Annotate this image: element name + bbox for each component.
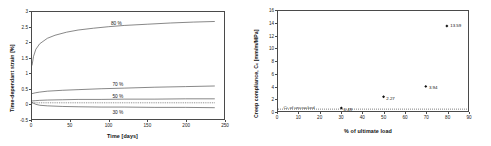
x-tick-label: 30 <box>338 115 343 120</box>
x-tick-label: 60 <box>402 115 407 120</box>
x-tick-mark <box>384 112 385 114</box>
curve-30- <box>32 102 215 107</box>
curve-80- <box>32 21 215 65</box>
data-point-label: 2.27 <box>386 95 395 100</box>
x-tick-label: 40 <box>360 115 365 120</box>
x-tick-label: 150 <box>144 123 152 128</box>
x-axis-label-right: % of ultimate load <box>245 128 491 134</box>
curve-label-50-: 50 % <box>112 93 123 98</box>
x-tick-label: 90 <box>466 115 471 120</box>
y-tick-label: 6 <box>257 71 274 76</box>
plot-area-left <box>31 11 225 120</box>
y-tick-label: 16 <box>257 8 274 13</box>
y-tick-label: 1.5 <box>10 55 28 60</box>
y-tick-mark <box>275 61 277 62</box>
x-tick-label: 0 <box>276 115 279 120</box>
y-tick-label: 2.5 <box>10 24 28 29</box>
x-axis-label-left: Time [days] <box>0 133 245 139</box>
y-tick-mark <box>29 42 31 43</box>
y-tick-label: 3 <box>10 9 28 14</box>
y-tick-label: 10 <box>257 46 274 51</box>
x-tick-label: 10 <box>296 115 301 120</box>
y-tick-label: 4 <box>257 84 274 89</box>
data-point-label: 13.59 <box>450 23 461 28</box>
chart-panel-creep-compliance: Creep compliance, Cc [mm/m/MPa] 02468101… <box>245 0 491 146</box>
data-point-marker <box>424 85 427 88</box>
data-point-marker <box>445 25 448 28</box>
x-tick-mark <box>298 112 299 114</box>
y-tick-label: 2 <box>257 97 274 102</box>
x-tick-label: 70 <box>424 115 429 120</box>
chart-panel-creep-strain: Time-dependant strain [%] -0.500.511.522… <box>0 0 245 146</box>
x-tick-label: 50 <box>381 115 386 120</box>
x-tick-label: 100 <box>105 123 113 128</box>
y-tick-mark <box>29 73 31 74</box>
x-tick-mark <box>469 112 470 114</box>
y-tick-mark <box>29 27 31 28</box>
y-tick-mark <box>29 11 31 12</box>
x-tick-mark <box>341 112 342 114</box>
x-tick-mark <box>448 112 449 114</box>
curve-label-80-: 80 % <box>111 20 122 25</box>
curve-50- <box>32 99 215 101</box>
y-tick-mark <box>275 99 277 100</box>
y-tick-mark <box>275 74 277 75</box>
data-point-marker <box>382 95 385 98</box>
x-tick-mark <box>109 120 110 122</box>
x-tick-label: 200 <box>182 123 190 128</box>
x-tick-mark <box>362 112 363 114</box>
y-tick-mark <box>275 87 277 88</box>
x-tick-label: 50 <box>67 123 72 128</box>
y-tick-label: 0 <box>10 102 28 107</box>
y-tick-mark <box>275 36 277 37</box>
annotation-uncracked-compliance: Cc of uncracked <box>283 105 314 110</box>
x-tick-mark <box>426 112 427 114</box>
x-tick-mark <box>70 120 71 122</box>
y-tick-mark <box>29 104 31 105</box>
x-tick-mark <box>31 120 32 122</box>
y-tick-mark <box>275 23 277 24</box>
left-curves-svg <box>32 12 224 119</box>
y-tick-label: 12 <box>257 33 274 38</box>
x-tick-mark <box>186 120 187 122</box>
y-tick-label: 0 <box>257 110 274 115</box>
y-tick-label: 0.5 <box>10 86 28 91</box>
y-tick-label: 1 <box>10 71 28 76</box>
figure-pair: Time-dependant strain [%] -0.500.511.522… <box>0 0 491 146</box>
curve-label-70-: 70 % <box>112 81 123 86</box>
right-scatter-svg <box>278 11 468 111</box>
data-point-label: 0.49 <box>344 106 353 111</box>
x-tick-mark <box>277 112 278 114</box>
x-tick-mark <box>320 112 321 114</box>
y-tick-label: 2 <box>10 40 28 45</box>
y-tick-mark <box>275 48 277 49</box>
y-tick-label: 8 <box>257 59 274 64</box>
x-tick-mark <box>405 112 406 114</box>
x-tick-label: 250 <box>221 123 229 128</box>
x-tick-label: 80 <box>445 115 450 120</box>
data-point-label: 3.94 <box>429 84 438 89</box>
y-tick-label: -0.5 <box>10 118 28 123</box>
plot-area-right <box>277 10 469 112</box>
y-tick-mark <box>29 58 31 59</box>
curve-label-30-: 30 % <box>112 109 123 114</box>
annotation-subscript: c <box>287 106 289 110</box>
x-tick-mark <box>147 120 148 122</box>
y-tick-label: 14 <box>257 20 274 25</box>
x-tick-label: 20 <box>317 115 322 120</box>
x-tick-label: 0 <box>30 123 33 128</box>
y-tick-mark <box>275 10 277 11</box>
y-tick-mark <box>29 89 31 90</box>
x-tick-mark <box>225 120 226 122</box>
